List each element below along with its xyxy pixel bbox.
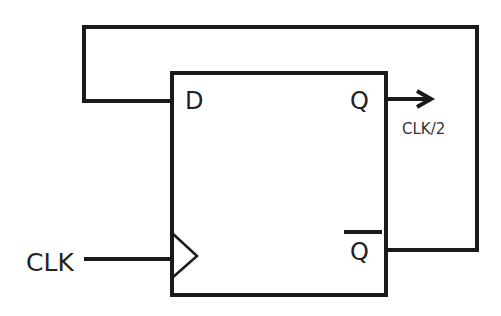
d-pin-label: D bbox=[185, 89, 203, 113]
clock-edge-triangle-icon bbox=[172, 233, 197, 278]
clk-input-label: CLK bbox=[26, 250, 74, 275]
output-label: CLK/2 bbox=[402, 122, 445, 137]
q-bar-overline bbox=[344, 230, 382, 234]
q-bar-pin-label: Q bbox=[350, 240, 369, 264]
feedback-wire bbox=[84, 27, 477, 250]
q-pin-label: Q bbox=[350, 89, 369, 113]
flip-flop-diagram bbox=[0, 0, 501, 316]
